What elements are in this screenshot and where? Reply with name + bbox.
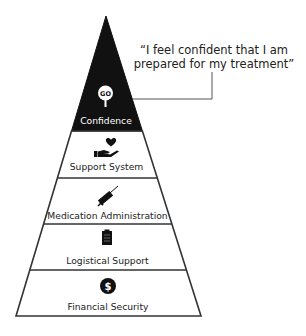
svg-text:GO: GO — [100, 90, 111, 98]
level-label-confidence: Confidence — [80, 115, 132, 126]
syringe-icon — [98, 186, 118, 206]
callout-quote-line2: prepared for my treatment” — [134, 57, 294, 71]
callout-connector — [133, 72, 212, 99]
clipboard-icon — [102, 230, 112, 246]
callout-quote-line1: “I feel confident that I am — [140, 43, 288, 57]
svg-text:$: $ — [105, 281, 112, 292]
heart-in-hand-icon — [94, 138, 119, 157]
level-label-logistical-support: Logistical Support — [66, 255, 149, 266]
pyramid-diagram: “I feel confident that I am prepared for… — [0, 0, 306, 336]
dollar-circle-icon: $ — [100, 278, 116, 294]
level-label-support-system: Support System — [70, 161, 144, 172]
level-label-financial-security: Financial Security — [68, 301, 149, 312]
level-label-medication-administration: Medication Administration — [47, 210, 168, 221]
pyramid-level-confidence — [72, 16, 143, 131]
